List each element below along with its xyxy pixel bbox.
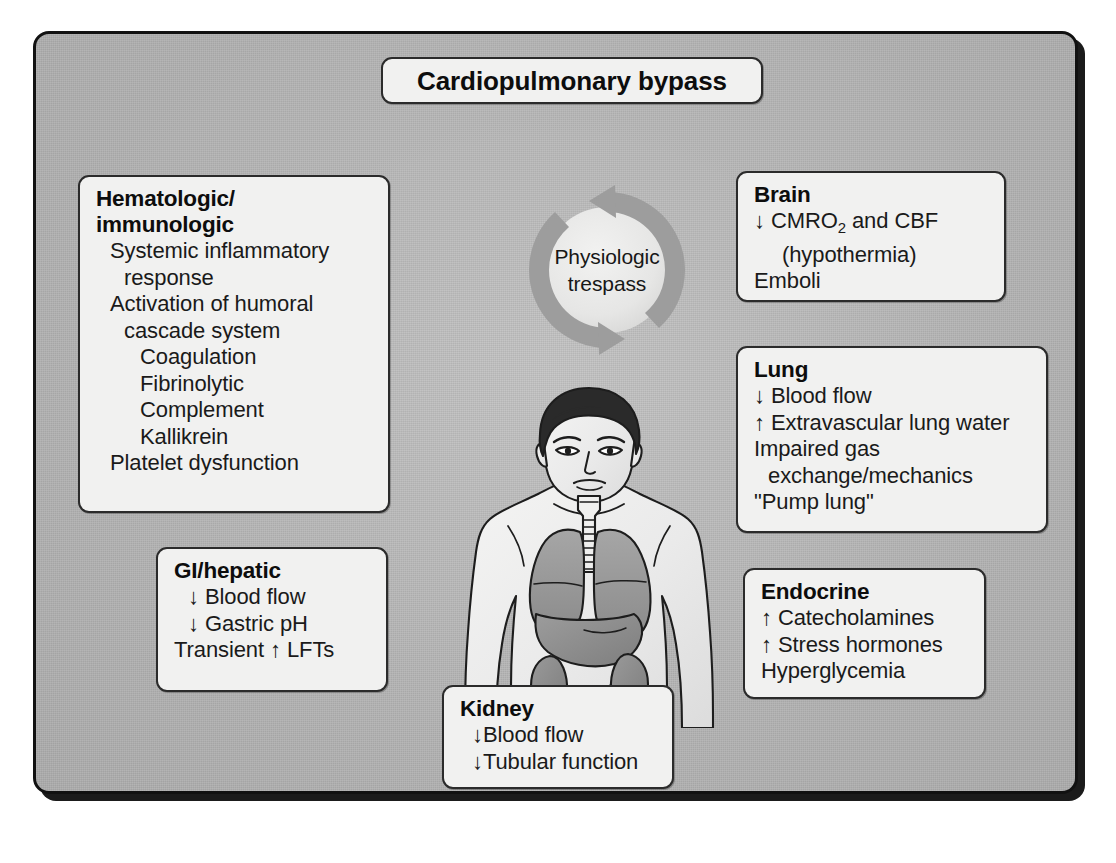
list-item: Complement xyxy=(96,397,374,424)
box-brain: Brain ↓ CMRO2 and CBF (hypothermia) Embo… xyxy=(736,171,1006,302)
page-title: Cardiopulmonary bypass xyxy=(383,59,761,103)
cycle-label: Physiologic trespass xyxy=(519,182,695,358)
list-item: Systemic inflammatory xyxy=(96,238,374,265)
box-lung: Lung ↓ Blood flow ↑ Extravascular lung w… xyxy=(736,346,1048,533)
list-item: Impaired gas xyxy=(754,436,1032,463)
list-item: Hyperglycemia xyxy=(761,658,970,685)
box-endocrine: Endocrine ↑ Catecholamines ↑ Stress horm… xyxy=(743,568,986,699)
list-item: Activation of humoral xyxy=(96,291,374,318)
list-item: ↓ Blood flow xyxy=(754,383,1032,410)
list-item: cascade system xyxy=(96,318,374,345)
list-item: ↓ CMRO2 and CBF xyxy=(754,208,990,242)
box-body: Lung ↓ Blood flow ↑ Extravascular lung w… xyxy=(738,348,1046,526)
title-box: Cardiopulmonary bypass xyxy=(381,57,763,104)
cardiopulmonary-bypass-figure: Cardiopulmonary bypass xyxy=(0,0,1116,863)
box-kidney: Kidney ↓Blood flow ↓Tubular function xyxy=(442,685,674,789)
list-item: Emboli xyxy=(754,268,990,295)
box-heading: Lung xyxy=(754,357,1032,383)
list-item: ↑ Extravascular lung water xyxy=(754,410,1032,437)
list-item: (hypothermia) xyxy=(754,242,990,269)
list-item: exchange/mechanics xyxy=(754,463,1032,490)
box-body: Kidney ↓Blood flow ↓Tubular function xyxy=(444,687,672,785)
list-item: Fibrinolytic xyxy=(96,371,374,398)
diagram-panel: Cardiopulmonary bypass xyxy=(33,31,1078,794)
physiologic-trespass-cycle: Physiologic trespass xyxy=(519,182,695,358)
box-gi-hepatic: GI/hepatic ↓ Blood flow ↓ Gastric pH Tra… xyxy=(156,547,388,692)
list-item: "Pump lung" xyxy=(754,489,1032,516)
box-heading: Endocrine xyxy=(761,579,970,605)
box-body: Brain ↓ CMRO2 and CBF (hypothermia) Embo… xyxy=(738,173,1004,305)
list-item: ↓ Blood flow xyxy=(174,584,372,611)
box-heading: Hematologic/ immunologic xyxy=(96,186,374,238)
box-body: GI/hepatic ↓ Blood flow ↓ Gastric pH Tra… xyxy=(158,549,386,674)
list-item: Platelet dysfunction xyxy=(96,450,374,477)
list-item: ↓Tubular function xyxy=(460,749,658,776)
list-item: response xyxy=(96,265,374,292)
box-heading: Kidney xyxy=(460,696,658,722)
list-item: Transient ↑ LFTs xyxy=(174,637,372,664)
cycle-label-line1: Physiologic xyxy=(554,243,659,270)
list-item: ↓Blood flow xyxy=(460,722,658,749)
human-torso-organs-illustration xyxy=(434,386,744,728)
list-item: ↓ Gastric pH xyxy=(174,611,372,638)
box-hematologic-immunologic: Hematologic/ immunologic Systemic inflam… xyxy=(78,175,390,513)
list-item: ↑ Catecholamines xyxy=(761,605,970,632)
box-heading: GI/hepatic xyxy=(174,558,372,584)
list-item: Coagulation xyxy=(96,344,374,371)
list-item: Kallikrein xyxy=(96,424,374,451)
box-heading: Brain xyxy=(754,182,990,208)
cycle-label-line2: trespass xyxy=(568,270,647,297)
box-body: Hematologic/ immunologic Systemic inflam… xyxy=(80,177,388,487)
list-item: ↑ Stress hormones xyxy=(761,632,970,659)
box-body: Endocrine ↑ Catecholamines ↑ Stress horm… xyxy=(745,570,984,695)
